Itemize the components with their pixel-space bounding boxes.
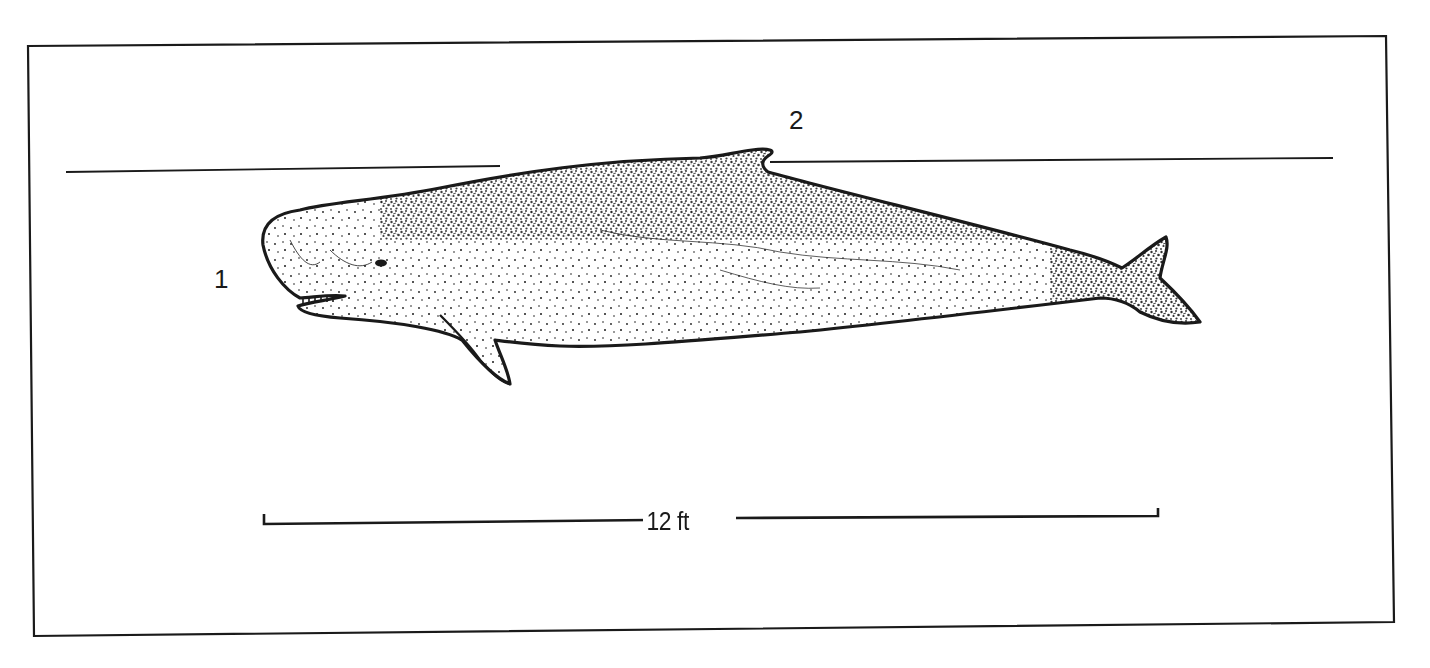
scale-bar xyxy=(264,508,1158,524)
whale-body xyxy=(250,140,1220,400)
label-dorsal-hump: 2 xyxy=(789,107,803,133)
scale-bar-label: 12 ft xyxy=(643,508,692,534)
eye-icon xyxy=(375,260,387,267)
label-head: 1 xyxy=(214,266,228,292)
whale-illustration xyxy=(0,0,1430,668)
whale-figure: 1 2 12 ft xyxy=(0,0,1430,668)
